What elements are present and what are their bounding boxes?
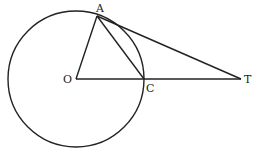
label-C: C (146, 82, 154, 95)
label-A: A (95, 2, 105, 15)
tangent-AT (97, 16, 241, 79)
label-T: T (244, 73, 252, 86)
label-O: O (63, 73, 72, 86)
geometry-diagram: A O C T (0, 0, 254, 150)
segment-OA (76, 16, 97, 79)
